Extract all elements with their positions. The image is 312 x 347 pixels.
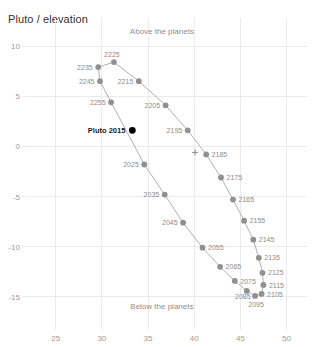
data-point-label: 2085 [235,293,251,300]
x-tick-label: 40 [190,334,199,343]
y-tick-label: -5 [13,193,21,202]
data-point-marker [218,175,224,181]
scatter-plot-canvas: 2025203520452055206520752085209521052115… [0,0,312,347]
data-point-marker [141,162,147,168]
data-point-marker [250,237,256,243]
y-tick-label: -15 [8,293,20,302]
chart-annotation: Below the planets [130,302,193,311]
y-tick-label: -10 [8,243,20,252]
data-point-marker [108,99,114,105]
data-point-labels: 2025203520452055206520752085209521052115… [77,51,284,308]
y-tick-label: 10 [11,42,20,51]
x-tick-label: 50 [282,334,291,343]
y-tick-label: 5 [16,92,21,101]
data-point-label: 2025 [123,161,139,168]
chart-annotations: Above the planetsBelow the planets [130,27,194,311]
data-point-label: 2155 [250,217,266,224]
x-tick-label: 30 [97,334,106,343]
data-point-marker [256,255,262,261]
pluto-2015-highlight: Pluto 2015 [88,126,136,135]
data-point-label: 2055 [208,244,224,251]
data-point-label: 2075 [240,278,256,285]
data-point-marker [217,264,223,270]
data-point-label: 2225 [104,51,120,58]
pluto-2015-label: Pluto 2015 [88,126,126,135]
x-tick-label: 25 [51,334,60,343]
data-point-label: 2045 [162,219,178,226]
y-tick-label: 0 [16,142,21,151]
data-point-label: 2215 [118,78,134,85]
data-point-label: 2195 [167,127,183,134]
data-point-marker [163,102,169,108]
data-point-marker [259,291,265,297]
data-point-label: 2035 [144,191,160,198]
x-axis-tick-labels: 253035404550 [51,334,291,343]
x-tick-label: 35 [144,334,153,343]
data-point-marker [136,78,142,84]
data-point-label: 2065 [226,263,242,270]
data-point-label: 2165 [239,196,255,203]
data-point-marker [200,245,206,251]
chart-container: Pluto / elevation 2025203520452055206520… [0,0,312,347]
data-point-marker [95,64,101,70]
data-point-marker [252,293,258,299]
data-point-label: 2175 [227,174,243,181]
data-point-label: 2205 [145,102,161,109]
data-point-label: 2245 [79,78,95,85]
data-point-marker [185,127,191,133]
data-point-marker [97,78,103,84]
data-point-label: 2255 [90,99,106,106]
data-point-marker [180,220,186,226]
data-point-label: 2095 [248,301,264,308]
data-point-marker [260,270,266,276]
data-point-label: 2185 [212,151,228,158]
data-point-marker [111,59,117,65]
data-point-label: 2125 [268,269,284,276]
origin-cross-icon [192,149,198,155]
data-point-marker [230,197,236,203]
data-point-label: 2145 [259,236,275,243]
data-point-marker [241,218,247,224]
data-point-marker [232,278,238,284]
data-point-label: 2115 [269,282,284,289]
data-point-label: 2135 [264,254,280,261]
data-point-label: 2235 [77,64,93,71]
data-point-label: 2105 [267,291,283,298]
x-tick-label: 45 [236,334,245,343]
data-point-marker [261,282,267,288]
data-point-marker [162,192,168,198]
pluto-2015-marker [129,127,136,134]
y-axis-tick-labels: 1050-5-10-15 [8,42,20,302]
chart-annotation: Above the planets [130,27,194,36]
data-point-marker [203,152,209,158]
